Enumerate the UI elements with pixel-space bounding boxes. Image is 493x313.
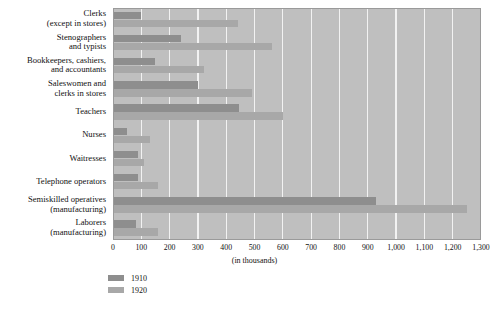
bar-1910 [113, 197, 376, 204]
legend-swatch-1920-icon [108, 287, 124, 294]
category-label: Waitresses [0, 154, 106, 164]
category-label-line: Nurses [0, 130, 106, 140]
bar-1910 [113, 35, 181, 42]
legend-label-1920: 1920 [131, 286, 147, 295]
category-label: Teachers [0, 107, 106, 117]
bar-1920 [113, 112, 283, 119]
bar-1910 [113, 104, 239, 111]
x-tick-label: 1,000 [387, 243, 405, 252]
x-tick-label: 800 [334, 243, 346, 252]
category-label: Saleswomen andclerks in stores [0, 79, 106, 98]
bar-1920 [113, 89, 252, 96]
bar-1910 [113, 12, 141, 19]
bar-1910 [113, 174, 138, 181]
x-tick-label: 500 [249, 243, 261, 252]
bar-1920 [113, 66, 204, 73]
x-tick-label: 1,300 [472, 243, 490, 252]
bar-1910 [113, 58, 155, 65]
x-tick-label: 900 [362, 243, 374, 252]
x-tick-label: 700 [305, 243, 317, 252]
bar-1910 [113, 128, 127, 135]
category-label: Clerks(except in stores) [0, 9, 106, 28]
plot-area [113, 8, 481, 240]
bar-1920 [113, 159, 144, 166]
category-label-line: (except in stores) [0, 19, 106, 29]
legend-item-1910: 1910 [108, 272, 147, 284]
x-tick-label: 300 [192, 243, 204, 252]
gridline [480, 8, 481, 240]
legend-item-1920: 1920 [108, 284, 147, 296]
category-label-line: Telephone operators [0, 177, 106, 187]
x-tick-label: 600 [277, 243, 289, 252]
legend-swatch-1910-icon [108, 275, 124, 282]
category-label: Laborers(manufacturing) [0, 218, 106, 237]
bar-1910 [113, 220, 136, 227]
category-label-line: (manufacturing) [0, 228, 106, 238]
x-tick-label: 0 [111, 243, 115, 252]
category-label-line: Waitresses [0, 154, 106, 164]
category-label-line: Teachers [0, 107, 106, 117]
category-axis-labels: Clerks(except in stores)Stenographersand… [0, 8, 110, 240]
bar-1920 [113, 182, 158, 189]
category-label-line: (manufacturing) [0, 205, 106, 215]
legend-label-1910: 1910 [131, 274, 147, 283]
bar-1910 [113, 81, 198, 88]
bar-1920 [113, 205, 467, 212]
x-axis-title-text: (in thousands) [232, 256, 278, 265]
category-label: Stenographersand typists [0, 33, 106, 52]
x-tick-label: 100 [135, 243, 147, 252]
category-label: Nurses [0, 130, 106, 140]
bar-1910 [113, 151, 138, 158]
x-tick-label: 200 [164, 243, 176, 252]
category-label: Telephone operators [0, 177, 106, 187]
bar-1920 [113, 43, 272, 50]
bar-1920 [113, 228, 158, 235]
bar-1920 [113, 136, 150, 143]
x-tick-label: 400 [220, 243, 232, 252]
category-label: Semiskilled operatives(manufacturing) [0, 195, 106, 214]
chart-legend: 1910 1920 [108, 272, 147, 296]
category-label: Bookkeepers, cashiers,and accountants [0, 56, 106, 75]
category-label-line: clerks in stores [0, 89, 106, 99]
category-label-line: and typists [0, 42, 106, 52]
x-tick-label: 1,100 [416, 243, 434, 252]
x-tick-label: 1,200 [444, 243, 462, 252]
category-label-line: and accountants [0, 65, 106, 75]
bar-1920 [113, 20, 238, 27]
x-axis-title: (in thousands) [0, 256, 493, 265]
bar-chart: Clerks(except in stores)Stenographersand… [0, 0, 493, 313]
